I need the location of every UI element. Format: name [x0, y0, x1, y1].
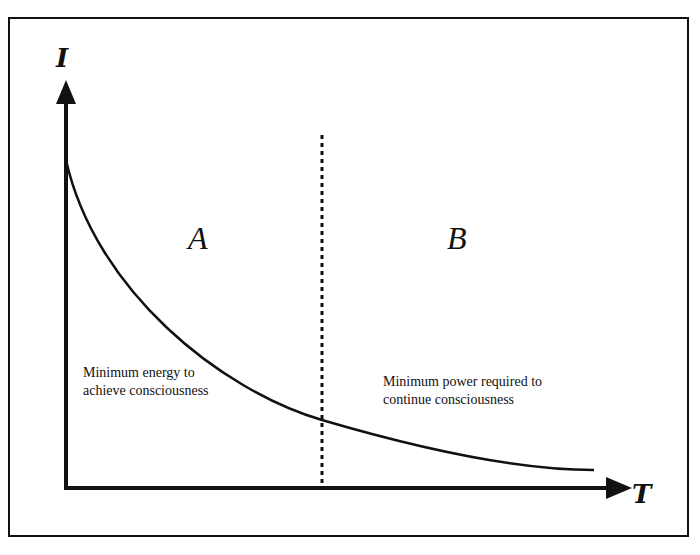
region-a-annotation-line1: Minimum energy to — [83, 364, 209, 382]
region-b-annotation: Minimum power required to continue consc… — [383, 373, 542, 409]
y-axis-arrow-icon — [56, 80, 76, 104]
x-axis-label: T — [632, 481, 651, 507]
region-b-label: B — [447, 222, 467, 254]
plot-area — [0, 0, 700, 555]
y-axis-label: I — [56, 45, 68, 71]
region-a-label: A — [188, 222, 208, 254]
decay-curve — [66, 160, 594, 470]
region-b-annotation-line1: Minimum power required to — [383, 373, 542, 391]
region-a-annotation-line2: achieve consciousness — [83, 382, 209, 400]
region-a-annotation: Minimum energy to achieve consciousness — [83, 364, 209, 400]
region-b-annotation-line2: continue consciousness — [383, 391, 542, 409]
x-axis-arrow-icon — [606, 477, 632, 499]
